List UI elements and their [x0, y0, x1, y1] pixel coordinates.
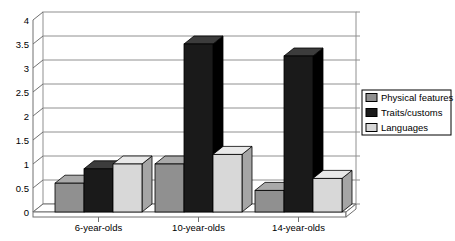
floor-front — [33, 212, 346, 217]
bar-languages-6-year-olds-side — [142, 156, 152, 212]
x-category-label-14-year-olds: 14-year-olds — [272, 222, 325, 233]
bar-languages-10-year-olds-side — [242, 146, 252, 212]
bar-traits-customs-14-year-olds — [284, 56, 313, 212]
legend-swatch-languages — [366, 124, 377, 132]
bar-physical-features-10-year-olds — [155, 164, 184, 212]
legend-label-traits-customs: Traits/customs — [381, 107, 443, 118]
bar-physical-features-6-year-olds — [55, 183, 84, 212]
x-category-label-10-year-olds: 10-year-olds — [172, 222, 225, 233]
legend-label-physical-features: Physical features — [381, 92, 454, 103]
bar-traits-customs-10-year-olds — [184, 44, 213, 212]
bar-traits-customs-6-year-olds — [84, 169, 113, 212]
y-tick-label: 1.5 — [16, 135, 29, 146]
chart-figure: 00.511.522.533.546-year-olds10-year-olds… — [0, 0, 455, 241]
legend-swatch-traits-customs — [366, 109, 377, 117]
legend-label-languages: Languages — [381, 122, 428, 133]
bar-languages-6-year-olds — [113, 164, 142, 212]
y-tick-label: 2.5 — [16, 87, 29, 98]
y-tick-label: 4 — [24, 15, 29, 26]
bar-languages-10-year-olds — [213, 154, 242, 212]
y-tick-label: 0 — [24, 207, 29, 218]
legend-swatch-physical-features — [366, 94, 377, 102]
y-tick-label: 3 — [24, 63, 29, 74]
bar-chart-3d: 00.511.522.533.546-year-olds10-year-olds… — [0, 0, 455, 241]
y-tick-label: 2 — [24, 111, 29, 122]
bar-physical-features-14-year-olds — [255, 190, 284, 212]
x-category-label-6-year-olds: 6-year-olds — [75, 222, 123, 233]
y-tick-label: 3.5 — [16, 39, 29, 50]
y-tick-label: 1 — [24, 159, 29, 170]
y-tick-label: 0.5 — [16, 183, 29, 194]
bar-languages-14-year-olds — [313, 178, 342, 212]
